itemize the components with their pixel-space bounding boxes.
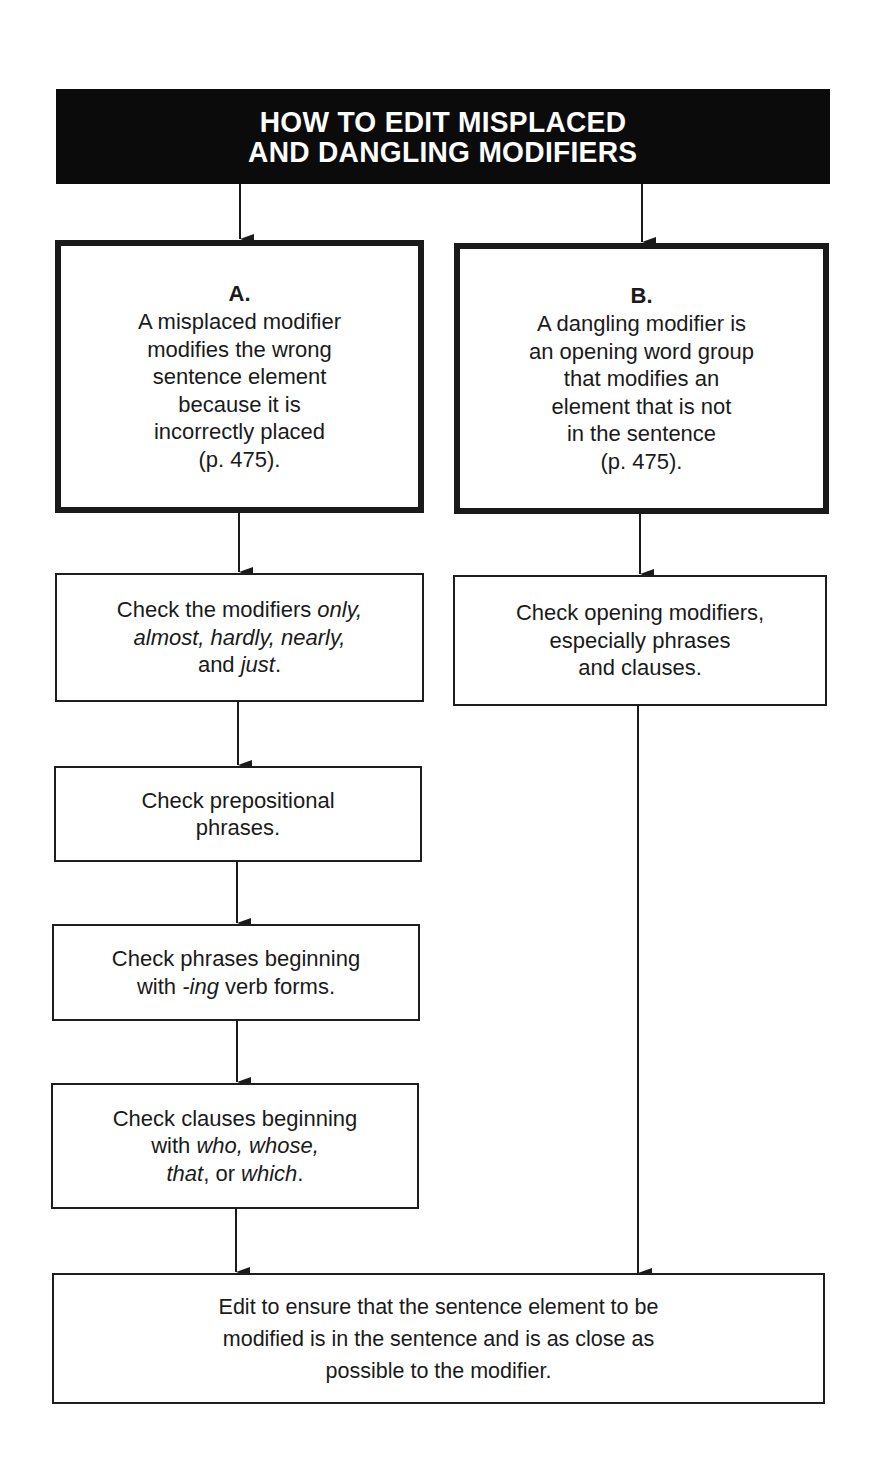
step-line: with -ing verb forms. <box>137 973 335 1001</box>
step-text: Check opening modifiers, <box>516 600 764 625</box>
step-check-relative-clauses: Check clauses beginningwith who, whose,t… <box>51 1083 419 1209</box>
step-line: Check phrases beginning <box>112 945 360 973</box>
step-text: . <box>297 1161 303 1186</box>
step-line: and just. <box>198 651 281 679</box>
italic-term: -ing <box>182 974 219 999</box>
step-text: phrases. <box>196 815 280 840</box>
box-b-line: in the sentence <box>567 420 716 448</box>
box-b-letter: B. <box>631 282 653 310</box>
italic-term: just <box>241 652 275 677</box>
box-b-line: an opening word group <box>529 338 754 366</box>
step-text: especially phrases <box>550 628 731 653</box>
step-line: that, or which. <box>167 1160 304 1188</box>
step-text: Check prepositional <box>141 788 334 813</box>
box-a-line: modifies the wrong <box>147 336 332 364</box>
box-a-letter: A. <box>229 280 251 308</box>
box-a-line: because it is <box>178 391 300 419</box>
step-text: and <box>198 652 241 677</box>
step-check-limiting-modifiers: Check the modifiers only,almost, hardly,… <box>55 573 424 702</box>
italic-term: only, <box>317 597 362 622</box>
title-banner: HOW TO EDIT MISPLACED AND DANGLING MODIF… <box>56 89 830 184</box>
final-edit-step: Edit to ensure that the sentence element… <box>52 1273 825 1404</box>
step-check-ing-phrases: Check phrases beginningwith -ing verb fo… <box>52 924 420 1021</box>
box-b-page-ref: (p. 475). <box>601 448 683 476</box>
step-text: Check the modifiers <box>117 597 318 622</box>
step-text: verb forms. <box>219 974 335 999</box>
italic-term: who, whose, <box>196 1133 318 1158</box>
step-text: , or <box>203 1161 241 1186</box>
step-line: phrases. <box>196 814 280 842</box>
italic-term: almost, hardly, nearly, <box>134 625 346 650</box>
step-line: with who, whose, <box>151 1132 319 1160</box>
box-b-line: element that is not <box>552 393 732 421</box>
step-text: with <box>151 1133 196 1158</box>
final-line: Edit to ensure that the sentence element… <box>219 1291 659 1323</box>
title-line-2: AND DANGLING MODIFIERS <box>248 137 637 167</box>
italic-term: which <box>241 1161 297 1186</box>
step-line: almost, hardly, nearly, <box>134 624 346 652</box>
box-a-line: incorrectly placed <box>154 418 325 446</box>
step-text: and clauses. <box>578 655 702 680</box>
final-line: possible to the modifier. <box>326 1355 552 1387</box>
connector-arrows <box>0 0 872 1483</box>
step-text: . <box>275 652 281 677</box>
step-text: with <box>137 974 182 999</box>
box-b-line: A dangling modifier is <box>537 310 746 338</box>
step-text: Check phrases beginning <box>112 946 360 971</box>
box-b-line: that modifies an <box>564 365 719 393</box>
step-check-prepositional-phrases: Check prepositionalphrases. <box>54 766 422 862</box>
step-line: and clauses. <box>578 654 702 682</box>
box-a-line: A misplaced modifier <box>138 308 341 336</box>
step-line: especially phrases <box>550 627 731 655</box>
step-line: Check opening modifiers, <box>516 599 764 627</box>
italic-term: that <box>167 1161 204 1186</box>
step-line: Check clauses beginning <box>113 1105 358 1133</box>
box-a-line: sentence element <box>153 363 327 391</box>
box-a-misplaced-modifier: A. A misplaced modifier modifies the wro… <box>55 240 424 513</box>
box-b-dangling-modifier: B. A dangling modifier is an opening wor… <box>454 243 829 514</box>
box-a-page-ref: (p. 475). <box>199 446 281 474</box>
step-line: Check prepositional <box>141 787 334 815</box>
final-line: modified is in the sentence and is as cl… <box>223 1323 654 1355</box>
step-check-opening-modifiers: Check opening modifiers,especially phras… <box>453 575 827 706</box>
step-line: Check the modifiers only, <box>117 596 362 624</box>
step-text: Check clauses beginning <box>113 1106 358 1131</box>
title-line-1: HOW TO EDIT MISPLACED <box>260 107 627 137</box>
